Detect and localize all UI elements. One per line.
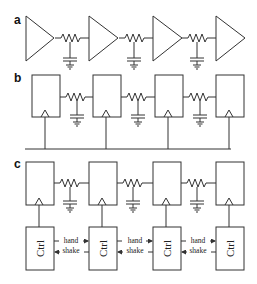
handshake-label-3b: shake	[189, 246, 207, 255]
panel-label-b: b	[14, 71, 21, 85]
panel-label-a: a	[14, 13, 21, 27]
panel-b: b	[14, 71, 244, 149]
panel-a: a	[14, 13, 245, 69]
panel-c: c	[14, 157, 244, 270]
diagram-canvas: a b	[0, 0, 257, 284]
handshake-label-2a: hand	[128, 236, 143, 245]
panel-label-c: c	[14, 157, 21, 171]
handshake-signals: hand shake hand shake hand shake	[54, 236, 216, 255]
handshake-label-1a: hand	[64, 236, 79, 245]
rc-segments-b	[60, 93, 216, 126]
ctrl-label-3: Ctrl	[161, 240, 173, 257]
ctrl-label-4: Ctrl	[224, 240, 236, 257]
rc-segments-c	[54, 179, 216, 212]
ctrl-label-1: Ctrl	[34, 240, 46, 257]
ctrl-label-2: Ctrl	[97, 240, 109, 257]
handshake-label-3a: hand	[191, 236, 206, 245]
handshake-label-2b: shake	[126, 246, 144, 255]
rc-segments-a	[55, 34, 216, 69]
handshake-label-1b: shake	[62, 246, 80, 255]
